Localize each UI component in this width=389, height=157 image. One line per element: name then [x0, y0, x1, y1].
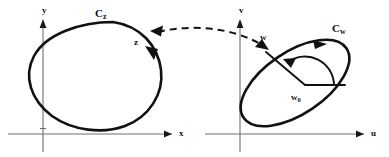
contour-label-cz: Cz	[95, 8, 106, 21]
v-axis-arrowhead	[237, 19, 244, 28]
u-axis-arrowhead	[356, 131, 364, 138]
y-axis-arrowhead	[40, 19, 47, 28]
contour-label-cw-base: C	[332, 22, 340, 34]
z-plane-curve-group	[29, 22, 161, 130]
point-label-z: z	[134, 38, 138, 47]
v-axis-label: v	[239, 6, 244, 15]
contour-curve-cw	[226, 23, 363, 144]
angle-arc	[288, 56, 334, 85]
contour-label-cw-subscript: w	[340, 27, 346, 36]
center-label-w0-subscript: 0	[298, 96, 301, 103]
figure-canvas	[0, 0, 389, 157]
point-label-w: w	[260, 33, 267, 42]
u-axis-label: u	[371, 129, 376, 138]
contour-label-cw: Cw	[332, 23, 346, 36]
figure-container: y x Cz z v u Cw w w0	[0, 0, 389, 157]
y-axis-label: y	[42, 6, 47, 15]
x-axis-arrowhead	[164, 131, 172, 138]
x-axis-label: x	[179, 129, 184, 138]
contour-label-cz-subscript: z	[103, 12, 107, 21]
w-plane-curve-group	[226, 23, 363, 144]
mapping-dashed-curve	[158, 28, 262, 45]
center-label-w0: w0	[291, 93, 301, 103]
contour-label-cz-base: C	[95, 7, 103, 19]
contour-curve-cz	[29, 22, 161, 130]
angle-arc-arrowhead	[283, 58, 296, 68]
contour-direction-arrow-cz	[145, 46, 158, 60]
mapping-arrow-group	[150, 26, 269, 51]
mapping-arrowhead-to-z	[150, 26, 163, 37]
